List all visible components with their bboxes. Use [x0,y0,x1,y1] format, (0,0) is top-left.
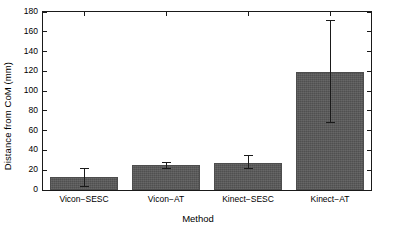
error-bar-stem [330,20,331,123]
y-tick-mark-right [367,110,371,111]
error-bar-cap-top [326,20,335,21]
y-tick-mark [43,190,47,191]
x-tick-mark-top [248,12,249,16]
error-bar-stem [84,168,85,186]
error-bar-stem [248,155,249,169]
y-tick-label: 80 [29,105,38,115]
x-tick-label: Kinect−AT [311,194,350,204]
x-tick-label: Vicon−AT [148,194,184,204]
y-tick-mark-right [367,170,371,171]
y-tick-mark-right [367,51,371,52]
error-bar-cap-bottom [244,168,253,169]
y-tick-mark-right [367,31,371,32]
y-tick-label: 120 [24,65,38,75]
figure-canvas: Distance from CoM (mm) 02040608010012014… [0,0,393,232]
y-tick-label: 180 [24,6,38,16]
plot-area: 020406080100120140160180 Vicon−SESCVicon… [42,11,372,191]
y-tick-label: 160 [24,26,38,36]
y-tick-mark [43,170,47,171]
x-tick-label: Kinect−SESC [222,194,274,204]
x-tick-mark-top [166,12,167,16]
x-tick-label: Vicon−SESC [59,194,108,204]
y-tick-label: 40 [29,144,38,154]
y-tick-mark [43,12,47,13]
y-tick-mark-right [367,12,371,13]
x-tick-mark-top [330,12,331,16]
y-tick-label: 20 [29,164,38,174]
y-tick-mark-right [367,190,371,191]
error-bar-cap-bottom [326,122,335,123]
error-bar-cap-top [162,162,171,163]
y-tick-label: 60 [29,125,38,135]
y-tick-mark-right [367,150,371,151]
y-tick-mark [43,91,47,92]
x-tick-mark-top [84,12,85,16]
y-tick-mark-right [367,91,371,92]
error-bar-cap-top [80,168,89,169]
y-tick-mark [43,31,47,32]
error-bar-cap-top [244,155,253,156]
y-axis-title: Distance from CoM (mm) [0,0,14,232]
y-tick-mark [43,71,47,72]
y-tick-mark [43,150,47,151]
y-tick-label: 0 [33,184,38,194]
error-bar-cap-bottom [80,186,89,187]
error-bar-cap-bottom [162,168,171,169]
x-axis-title: Method [24,213,372,224]
y-tick-mark [43,130,47,131]
y-tick-mark-right [367,71,371,72]
y-tick-mark [43,51,47,52]
y-tick-mark-right [367,130,371,131]
y-tick-mark [43,110,47,111]
y-tick-label: 140 [24,46,38,56]
y-tick-label: 100 [24,85,38,95]
